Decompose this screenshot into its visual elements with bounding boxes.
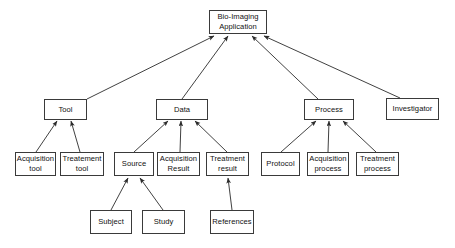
node-label-secondary: Result (168, 164, 190, 174)
node-label-primary: Treatment (360, 154, 395, 164)
edge-source-to-data (134, 121, 168, 152)
node-label-primary: Study (154, 217, 174, 227)
node-label-primary: Tool (58, 105, 72, 115)
node-treatment-result[interactable]: Treatmentresult (206, 152, 249, 176)
edge-process-to-app (252, 36, 318, 99)
node-study[interactable]: Study (142, 210, 185, 234)
node-label-primary: Acquisition (17, 154, 54, 164)
node-tool[interactable]: Tool (44, 99, 87, 120)
node-protocol[interactable]: Protocol (261, 152, 300, 176)
node-label-primary: Acquisition (160, 154, 197, 164)
edge-acquisition-result-to-data (180, 121, 181, 152)
edge-treatment-result-to-data (195, 121, 227, 152)
node-label-secondary: process (364, 164, 391, 174)
node-label-primary: Bio-Imaging (217, 12, 258, 22)
node-investigator[interactable]: Investigator (386, 98, 439, 120)
edge-study-to-source (140, 178, 163, 210)
edge-references-to-treatment-result (228, 178, 232, 210)
edge-protocol-to-process (281, 121, 316, 152)
node-source[interactable]: Source (114, 152, 154, 176)
edge-investigator-to-app (264, 36, 400, 98)
edge-treatement-tool-to-tool (71, 121, 80, 152)
edge-group (36, 36, 400, 210)
node-label-secondary: Application (219, 22, 257, 32)
node-label-primary: Subject (98, 217, 124, 227)
edge-tool-to-app (87, 36, 214, 99)
node-label-primary: Treatement (62, 154, 101, 164)
edge-acquisition-process-to-process (328, 121, 329, 152)
node-label-secondary: process (315, 164, 342, 174)
edge-subject-to-source (111, 178, 128, 210)
node-data[interactable]: Data (156, 99, 208, 120)
node-treatement-tool[interactable]: Treatementtool (60, 152, 104, 176)
node-label-primary: Source (122, 159, 146, 169)
node-treatment-process[interactable]: Treatmentprocess (356, 152, 399, 176)
node-acquisition-process[interactable]: Acquisitionprocess (307, 152, 349, 176)
edge-data-to-app (182, 36, 228, 99)
node-label-primary: Data (174, 105, 190, 115)
node-label-primary: Acquisition (309, 154, 346, 164)
node-label-primary: References (212, 217, 251, 227)
node-subject[interactable]: Subject (90, 210, 132, 234)
node-label-primary: Process (315, 105, 343, 115)
edge-treatment-process-to-process (343, 121, 376, 152)
node-acquisition-result[interactable]: AcquisitionResult (157, 152, 200, 176)
node-acquisition-tool[interactable]: Acquisitiontool (15, 152, 56, 176)
node-label-secondary: tool (29, 164, 41, 174)
node-label-secondary: tool (76, 164, 88, 174)
node-label-primary: Treatment (210, 154, 245, 164)
diagram-canvas: Bio-ImagingApplicationToolDataProcessInv… (0, 0, 455, 248)
node-label-primary: Investigator (393, 104, 433, 114)
node-app[interactable]: Bio-ImagingApplication (209, 10, 267, 34)
edge-acquisition-tool-to-tool (36, 121, 57, 152)
node-label-secondary: result (218, 164, 237, 174)
node-label-primary: Protocol (266, 159, 294, 169)
node-references[interactable]: References (210, 210, 254, 234)
node-process[interactable]: Process (304, 99, 354, 120)
